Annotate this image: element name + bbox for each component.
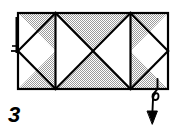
origami-diagram-svg [0, 0, 181, 136]
left-edge-thick-fold [11, 17, 19, 53]
origami-figure: 3 [0, 0, 181, 136]
step-number: 3 [8, 104, 20, 126]
fold-arrow-head [147, 111, 157, 124]
fold-arrow-loop [152, 88, 158, 113]
